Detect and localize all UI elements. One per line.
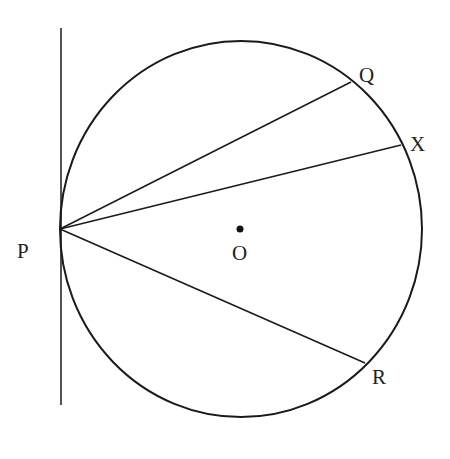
label-r: R (372, 367, 386, 388)
label-x: X (410, 134, 425, 155)
chord-px (60, 145, 401, 229)
chord-pq (60, 82, 351, 229)
geometry-diagram (0, 0, 450, 459)
label-q: Q (359, 65, 374, 86)
label-o: O (232, 243, 247, 264)
chord-pr (60, 229, 365, 363)
label-p: P (17, 241, 29, 262)
center-point (237, 226, 244, 233)
